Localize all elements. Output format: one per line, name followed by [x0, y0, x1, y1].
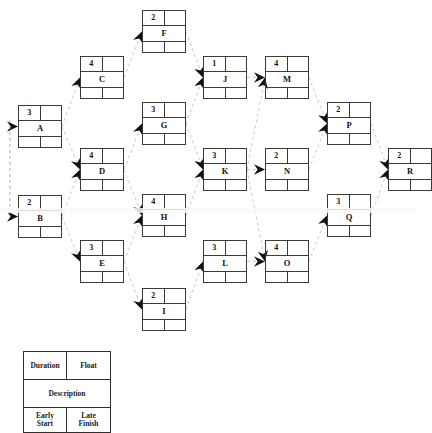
edge-f-to-j: [186, 32, 203, 78]
node-float-h: [165, 195, 186, 209]
node-float-c: [103, 57, 124, 71]
edge-g-to-k: [186, 124, 203, 170]
node-row-duration-float: 2: [143, 289, 185, 304]
node-early-start-i: [143, 320, 165, 330]
node-early-start-a: [19, 137, 41, 147]
activity-node-b[interactable]: 2B: [18, 195, 62, 238]
node-early-start-j: [204, 88, 226, 98]
node-float-k: [226, 149, 247, 163]
node-row-description: E: [81, 256, 123, 272]
activity-node-g[interactable]: 3G: [142, 102, 186, 145]
activity-node-d[interactable]: 4D: [80, 148, 124, 191]
activity-node-o[interactable]: 4O: [265, 240, 309, 283]
node-label-q: Q: [328, 210, 370, 225]
node-row-description: C: [81, 72, 123, 88]
node-late-finish-m: [288, 88, 309, 98]
node-early-start-f: [143, 42, 165, 52]
node-float-p: [350, 103, 371, 117]
legend-late-finish-label: Late Finish: [67, 408, 110, 432]
node-label-n: N: [266, 164, 308, 179]
node-float-l: [226, 241, 247, 255]
edge-b-to-e: [62, 217, 80, 262]
activity-node-c[interactable]: 4C: [80, 56, 124, 99]
node-duration-a: 3: [19, 106, 41, 120]
node-early-start-o: [266, 272, 288, 282]
activity-node-r[interactable]: 2R: [388, 148, 432, 191]
node-float-o: [288, 241, 309, 255]
node-float-r: [411, 149, 432, 163]
legend-description-label: Description: [24, 380, 110, 407]
activity-node-q[interactable]: 3Q: [327, 194, 371, 237]
node-row-duration-float: 3: [204, 241, 246, 256]
node-row-duration-float: 4: [81, 149, 123, 164]
node-duration-b: 2: [19, 196, 41, 210]
node-float-i: [165, 289, 186, 303]
node-float-j: [226, 57, 247, 71]
node-early-start-m: [266, 88, 288, 98]
node-row-dates: [143, 134, 185, 144]
activity-node-f[interactable]: 2F: [142, 10, 186, 53]
activity-node-k[interactable]: 3K: [203, 148, 247, 191]
node-row-dates: [328, 226, 370, 236]
node-late-finish-q: [350, 226, 371, 236]
node-label-m: M: [266, 72, 308, 87]
node-label-c: C: [81, 72, 123, 87]
node-late-finish-b: [41, 227, 62, 237]
activity-node-e[interactable]: 3E: [80, 240, 124, 283]
node-row-duration-float: 4: [143, 195, 185, 210]
node-late-finish-h: [165, 226, 186, 236]
node-row-description: N: [266, 164, 308, 180]
node-duration-e: 3: [81, 241, 103, 255]
activity-node-n[interactable]: 2N: [265, 148, 309, 191]
activity-node-p[interactable]: 2P: [327, 102, 371, 145]
node-late-finish-d: [103, 180, 124, 190]
legend-key: Duration Float Description Early Start L…: [23, 351, 111, 433]
node-late-finish-a: [41, 137, 62, 147]
node-late-finish-l: [226, 272, 247, 282]
legend-early-start-line2: Start: [37, 419, 53, 428]
edge-d-to-h: [124, 170, 142, 216]
edge-a-to-c: [62, 78, 80, 127]
legend-late-finish-line2: Finish: [78, 419, 98, 428]
node-label-i: I: [143, 304, 185, 319]
node-float-m: [288, 57, 309, 71]
node-label-g: G: [143, 118, 185, 133]
node-early-start-h: [143, 226, 165, 236]
node-row-dates: [143, 42, 185, 52]
node-row-dates: [19, 227, 61, 237]
edge-k-to-o: [247, 170, 265, 262]
node-late-finish-i: [165, 320, 186, 330]
node-duration-h: 4: [143, 195, 165, 209]
node-row-description: B: [19, 211, 61, 227]
activity-node-a[interactable]: 3A: [18, 105, 62, 148]
node-duration-d: 4: [81, 149, 103, 163]
node-label-r: R: [389, 164, 431, 179]
activity-node-i[interactable]: 2I: [142, 288, 186, 331]
node-float-e: [103, 241, 124, 255]
activity-node-j[interactable]: 1J: [203, 56, 247, 99]
node-row-description: L: [204, 256, 246, 272]
node-early-start-b: [19, 227, 41, 237]
node-row-duration-float: 3: [204, 149, 246, 164]
node-row-duration-float: 2: [266, 149, 308, 164]
node-label-p: P: [328, 118, 370, 133]
edge-d-to-g: [124, 124, 142, 170]
node-row-description: K: [204, 164, 246, 180]
node-row-description: J: [204, 72, 246, 88]
activity-node-l[interactable]: 3L: [203, 240, 247, 283]
node-row-duration-float: 2: [328, 103, 370, 118]
node-early-start-d: [81, 180, 103, 190]
node-late-finish-p: [350, 134, 371, 144]
node-late-finish-g: [165, 134, 186, 144]
activity-node-h[interactable]: 4H: [142, 194, 186, 237]
node-row-duration-float: 2: [143, 11, 185, 26]
node-early-start-n: [266, 180, 288, 190]
activity-node-m[interactable]: 4M: [265, 56, 309, 99]
arrowhead-j-to-m: [254, 72, 265, 82]
node-label-e: E: [81, 256, 123, 271]
arrowhead-start-to-a: [7, 121, 18, 131]
node-label-a: A: [19, 121, 61, 136]
node-row-duration-float: 2: [389, 149, 431, 164]
arrowhead-start-to-b: [7, 211, 18, 221]
